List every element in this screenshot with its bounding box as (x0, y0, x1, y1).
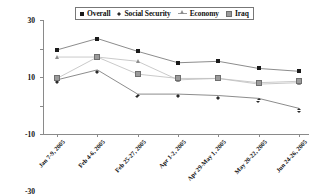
legend-item-economy: Economy (178, 9, 219, 18)
plot-area: 3010-10-30-50 (43, 20, 309, 134)
gray-square-icon (226, 11, 232, 17)
data-point-economy-0 (55, 55, 59, 59)
x-tick (218, 134, 219, 137)
data-point-economy-2 (136, 59, 140, 63)
legend-item-overall: Overall (80, 9, 110, 18)
x-tick (138, 134, 139, 137)
x-axis-label-5: May 20-22, 2005 (232, 138, 267, 175)
x-tick (178, 134, 179, 137)
x-tick (299, 134, 300, 137)
y-tick-label-3: -30 (25, 187, 35, 196)
legend-label-economy: Economy (190, 9, 219, 18)
data-point-iraq-0 (54, 75, 60, 81)
y-tick: -50 (40, 134, 43, 135)
data-point-iraq-5 (256, 80, 262, 86)
data-point-social-security-6 (297, 106, 301, 110)
data-point-social-security-1 (95, 68, 99, 72)
chart-container: Overall Social Security Economy Iraq 301… (0, 0, 317, 195)
data-point-iraq-4 (215, 75, 221, 81)
data-point-overall-3 (176, 61, 180, 65)
legend-label-social-security: Social Security (124, 9, 170, 18)
y-tick-label-1: 10 (28, 73, 36, 82)
x-axis (43, 134, 309, 135)
y-tick-label-2: -10 (25, 130, 35, 139)
x-axis-label-0: Jan 7-9, 2005 (37, 138, 66, 169)
legend-label-overall: Overall (87, 9, 110, 18)
data-point-iraq-3 (175, 75, 181, 81)
x-axis-label-4: Apr 29-May 1, 2005 (186, 138, 228, 182)
x-tick (259, 134, 260, 137)
data-point-overall-6 (297, 69, 301, 73)
legend-label-iraq: Iraq (235, 9, 249, 18)
legend-line-economy (178, 13, 187, 14)
data-point-iraq-1 (94, 54, 100, 60)
legend-item-social-security: Social Security (117, 9, 170, 18)
legend-item-iraq: Iraq (226, 9, 249, 18)
data-point-overall-0 (55, 48, 59, 52)
y-tick-label-0: 30 (28, 16, 36, 25)
x-tick (57, 134, 58, 137)
x-axis-label-6: Jun 24-26, 2005 (274, 138, 308, 174)
data-point-social-security-2 (136, 92, 140, 96)
open-triangle-icon (180, 10, 184, 14)
x-axis-label-3: Apr 1-2, 2005 (157, 138, 187, 169)
x-axis-label-2: Feb 25-27, 2005 (113, 138, 147, 174)
data-point-overall-5 (257, 66, 261, 70)
data-point-overall-4 (216, 59, 220, 63)
data-point-social-security-5 (257, 96, 261, 100)
data-point-iraq-2 (135, 71, 141, 77)
filled-diamond-icon (117, 10, 121, 14)
x-axis-label-1: Feb 4-6, 2005 (77, 138, 107, 169)
data-point-social-security-4 (216, 94, 220, 98)
series-line-0 (57, 39, 299, 72)
filled-square-icon (80, 12, 84, 16)
data-point-iraq-6 (296, 78, 302, 84)
data-point-overall-2 (136, 49, 140, 53)
chart-legend: Overall Social Security Economy Iraq (75, 7, 254, 20)
data-point-overall-1 (95, 37, 99, 41)
x-tick (97, 134, 98, 137)
data-point-social-security-3 (176, 92, 180, 96)
